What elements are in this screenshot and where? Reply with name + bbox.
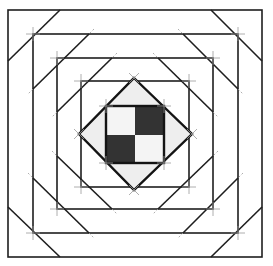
checker-cell-bottom-right	[135, 135, 164, 163]
center-checker-square	[106, 106, 164, 163]
checker-cell-bottom-left	[106, 135, 135, 163]
quilt-block-diagram	[0, 0, 273, 266]
checker-cell-top-left	[106, 106, 135, 135]
checker-cell-top-right	[135, 106, 164, 135]
